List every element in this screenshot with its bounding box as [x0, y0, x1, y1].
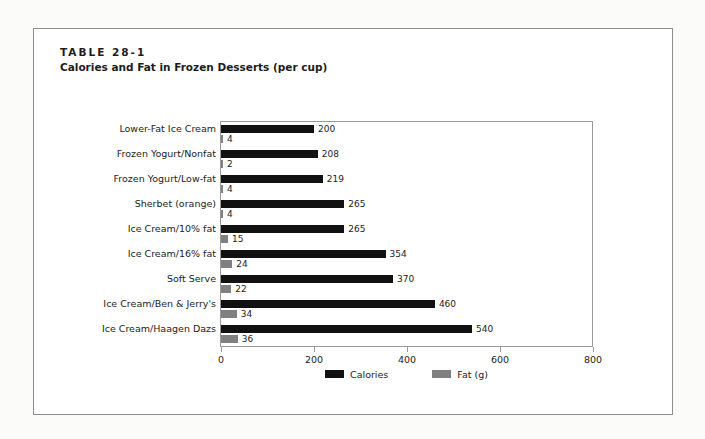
- legend-item-calories: Calories: [325, 369, 388, 380]
- bar-value-fat: 34: [241, 310, 252, 318]
- chart-legend: Calories Fat (g): [220, 367, 593, 381]
- x-axis-tick: [500, 347, 501, 352]
- bar-value-fat: 22: [235, 285, 246, 293]
- legend-swatch-fat: [432, 370, 451, 378]
- x-axis-tick: [593, 347, 594, 352]
- bar-value-calories: 219: [327, 175, 344, 183]
- y-axis-label: Frozen Yogurt/Low-fat: [46, 175, 216, 183]
- table-number-label: TABLE 28-1: [60, 45, 327, 59]
- x-axis-tick: [314, 347, 315, 352]
- bar-fat: [221, 235, 228, 243]
- bar-fat: [221, 260, 232, 268]
- bar-value-fat: 15: [232, 235, 243, 243]
- bar-value-calories: 370: [397, 275, 414, 283]
- bar-value-calories: 460: [439, 300, 456, 308]
- bar-value-calories: 265: [348, 200, 365, 208]
- x-axis: 0200400600800: [220, 347, 595, 369]
- y-axis-label: Lower-Fat Ice Cream: [46, 125, 216, 133]
- x-axis-tick: [221, 347, 222, 352]
- bar-fat: [221, 160, 223, 168]
- bar-calories: [221, 150, 318, 158]
- bar-value-fat: 4: [227, 185, 233, 193]
- bar-fat: [221, 210, 223, 218]
- legend-item-fat: Fat (g): [432, 369, 488, 380]
- bar-value-calories: 200: [318, 125, 335, 133]
- bar-calories: [221, 225, 344, 233]
- y-axis-label: Soft Serve: [46, 275, 216, 283]
- x-axis-tick-label: 800: [584, 354, 602, 365]
- bar-fat: [221, 135, 223, 143]
- bar-value-fat: 2: [227, 160, 233, 168]
- x-axis-tick-label: 0: [218, 354, 224, 365]
- y-axis-label: Ice Cream/16% fat: [46, 250, 216, 258]
- bar-calories: [221, 300, 435, 308]
- plot-area: 2004208221942654265153542437022460345403…: [220, 121, 593, 347]
- x-axis-tick-label: 600: [491, 354, 509, 365]
- bar-value-fat: 36: [242, 335, 253, 343]
- legend-swatch-calories: [325, 370, 344, 378]
- screenshot-root: TABLE 28-1 Calories and Fat in Frozen De…: [0, 0, 705, 439]
- bar-fat: [221, 335, 238, 343]
- table-container: TABLE 28-1 Calories and Fat in Frozen De…: [33, 28, 673, 415]
- y-axis-labels: Lower-Fat Ice CreamFrozen Yogurt/NonfatF…: [44, 121, 216, 347]
- bar-calories: [221, 275, 393, 283]
- bar-fat: [221, 310, 237, 318]
- bar-fat: [221, 185, 223, 193]
- bars-container: 2004208221942654265153542437022460345403…: [221, 122, 592, 346]
- y-axis-label: Ice Cream/Ben & Jerry's: [46, 300, 216, 308]
- bar-calories: [221, 125, 314, 133]
- bar-fat: [221, 285, 231, 293]
- bar-calories: [221, 250, 386, 258]
- bar-value-fat: 4: [227, 135, 233, 143]
- bar-calories: [221, 175, 323, 183]
- bar-calories: [221, 200, 344, 208]
- bar-value-fat: 4: [227, 210, 233, 218]
- table-caption: TABLE 28-1 Calories and Fat in Frozen De…: [60, 45, 327, 75]
- legend-label-calories: Calories: [350, 369, 388, 380]
- legend-label-fat: Fat (g): [457, 369, 488, 380]
- bar-value-calories: 354: [390, 250, 407, 258]
- y-axis-label: Ice Cream/10% fat: [46, 225, 216, 233]
- bar-calories: [221, 325, 472, 333]
- y-axis-label: Frozen Yogurt/Nonfat: [46, 150, 216, 158]
- bar-value-calories: 265: [348, 225, 365, 233]
- bar-value-fat: 24: [236, 260, 247, 268]
- x-axis-tick-label: 200: [305, 354, 323, 365]
- y-axis-label: Sherbet (orange): [46, 200, 216, 208]
- bar-value-calories: 540: [476, 325, 493, 333]
- table-title: Calories and Fat in Frozen Desserts (per…: [60, 60, 327, 75]
- x-axis-tick-label: 400: [398, 354, 416, 365]
- y-axis-label: Ice Cream/Haagen Dazs: [46, 325, 216, 333]
- x-axis-tick: [407, 347, 408, 352]
- bar-value-calories: 208: [322, 150, 339, 158]
